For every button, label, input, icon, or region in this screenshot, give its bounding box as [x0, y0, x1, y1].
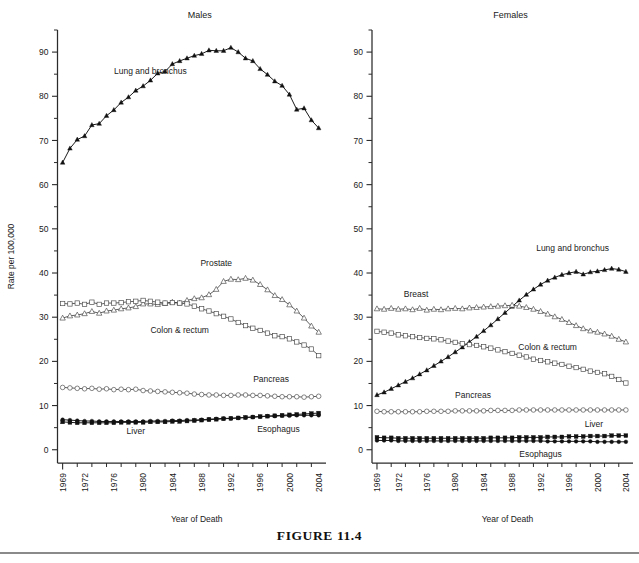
marker-filled-circle — [97, 420, 101, 424]
marker-open-circle — [496, 408, 501, 413]
marker-open-square — [82, 302, 86, 306]
marker-open-circle — [258, 393, 263, 398]
marker-open-square — [163, 301, 167, 305]
marker-open-square — [185, 302, 189, 306]
marker-open-circle — [82, 386, 87, 391]
marker-filled-circle — [560, 439, 564, 443]
marker-filled-circle — [156, 419, 160, 423]
marker-filled-circle — [489, 439, 493, 443]
marker-open-triangle — [89, 309, 94, 314]
marker-open-square — [273, 334, 277, 338]
marker-filled-square — [588, 434, 592, 438]
marker-open-square — [545, 360, 549, 364]
marker-filled-circle — [119, 420, 123, 424]
y-tick-label: 50 — [354, 224, 364, 234]
marker-filled-circle — [149, 419, 153, 423]
marker-open-circle — [316, 394, 321, 399]
marker-open-square — [236, 320, 240, 324]
figure-container: Males01020304050607080901969197219761980… — [0, 0, 639, 563]
marker-open-triangle — [294, 308, 299, 313]
marker-filled-square — [610, 434, 614, 438]
marker-open-circle — [467, 409, 472, 414]
y-tick-label: 30 — [39, 312, 49, 322]
marker-open-circle — [302, 395, 307, 400]
marker-filled-triangle — [524, 292, 529, 296]
marker-open-square — [302, 343, 306, 347]
y-tick-label: 10 — [354, 401, 364, 411]
x-tick-label: 1988 — [507, 473, 517, 492]
marker-open-circle — [309, 394, 314, 399]
y-tick-label: 90 — [354, 47, 364, 57]
marker-open-square — [581, 367, 585, 371]
y-tick-label: 10 — [39, 401, 49, 411]
marker-open-square — [243, 323, 247, 327]
marker-open-square — [90, 300, 94, 304]
marker-open-square — [396, 333, 400, 337]
marker-filled-circle — [266, 414, 270, 418]
marker-open-circle — [389, 409, 394, 414]
marker-open-circle — [432, 409, 437, 414]
marker-open-triangle — [431, 306, 436, 311]
marker-filled-circle — [439, 439, 443, 443]
marker-open-circle — [126, 387, 131, 392]
x-tick-label: 2000 — [593, 473, 603, 492]
marker-open-square — [453, 340, 457, 344]
marker-filled-circle — [163, 419, 167, 423]
marker-open-square — [574, 365, 578, 369]
marker-filled-circle — [178, 419, 182, 423]
marker-open-triangle — [389, 305, 394, 310]
marker-open-circle — [141, 388, 146, 393]
marker-open-circle — [229, 393, 234, 398]
marker-open-square — [595, 370, 599, 374]
marker-filled-circle — [90, 419, 94, 423]
y-tick-label: 40 — [354, 268, 364, 278]
x-tick-label: 1976 — [109, 473, 119, 492]
marker-open-square — [417, 335, 421, 339]
series-label-pancreas: Pancreas — [253, 374, 289, 384]
marker-filled-triangle — [424, 368, 429, 372]
marker-filled-circle — [185, 418, 189, 422]
marker-open-square — [617, 377, 621, 381]
panel-title-females: Females — [493, 10, 528, 20]
marker-filled-circle — [222, 416, 226, 420]
marker-filled-circle — [596, 440, 600, 444]
y-tick-label: 20 — [39, 356, 49, 366]
marker-open-triangle — [316, 329, 321, 334]
marker-open-triangle — [374, 306, 379, 311]
marker-filled-circle — [251, 415, 255, 419]
marker-filled-triangle — [609, 266, 614, 270]
marker-open-square — [553, 361, 557, 365]
marker-open-square — [316, 353, 320, 357]
marker-open-triangle — [417, 305, 422, 310]
marker-open-circle — [185, 391, 190, 396]
x-tick-label: 1976 — [422, 473, 432, 492]
marker-filled-circle — [567, 439, 571, 443]
figure-caption: FIGURE 11.4 — [0, 528, 639, 544]
x-tick-label: 2000 — [285, 473, 295, 492]
marker-open-square — [134, 299, 138, 303]
series-pancreas: Pancreas — [375, 390, 629, 414]
marker-open-circle — [581, 408, 586, 413]
marker-open-square — [75, 301, 79, 305]
marker-filled-square — [546, 435, 550, 439]
x-tick-label: 1992 — [226, 473, 236, 492]
marker-open-circle — [170, 390, 175, 395]
marker-open-circle — [624, 408, 629, 413]
marker-filled-circle — [425, 439, 429, 443]
marker-filled-triangle — [60, 160, 65, 164]
marker-filled-circle — [524, 439, 528, 443]
marker-open-circle — [382, 409, 387, 414]
marker-open-circle — [560, 408, 565, 413]
marker-filled-circle — [603, 440, 607, 444]
marker-filled-square — [553, 435, 557, 439]
marker-open-circle — [214, 393, 219, 398]
marker-open-square — [531, 357, 535, 361]
marker-open-triangle — [453, 305, 458, 310]
marker-filled-triangle — [432, 363, 437, 367]
marker-filled-circle — [546, 439, 550, 443]
series-label-colon-rectum: Colon & rectum — [150, 325, 209, 335]
series-prostate: Prostate — [60, 258, 321, 334]
marker-open-triangle — [206, 292, 211, 297]
marker-filled-circle — [460, 439, 464, 443]
marker-filled-square — [624, 434, 628, 438]
